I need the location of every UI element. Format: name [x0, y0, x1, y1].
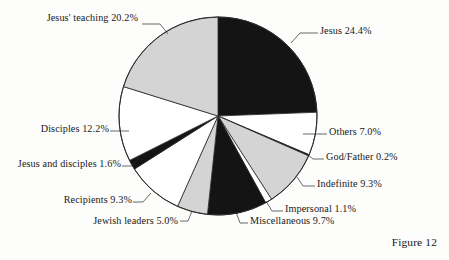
figure-container: Jesus' teaching 20.2% Jesus 24.4% Others… [0, 0, 449, 260]
pie-label-jesus: Jesus 24.4% [320, 26, 371, 37]
pie-slice-group [119, 17, 317, 215]
leader-line-recipients [133, 193, 151, 202]
pie-label-miscellaneous: Miscellaneous 9.7% [250, 216, 334, 227]
leader-line-indefinite [297, 177, 315, 186]
pie-label-jesus-and-disciples: Jesus and disciples 1.6% [18, 159, 121, 170]
pie-label-others: Others 7.0% [329, 127, 381, 138]
figure-caption: Figure 12 [392, 236, 437, 248]
leader-line-jewish-leaders [180, 211, 192, 221]
pie-label-jesus-teaching: Jesus' teaching 20.2% [47, 13, 138, 24]
pie-slice[interactable] [218, 17, 317, 116]
pie-label-jewish-leaders: Jewish leaders 5.0% [93, 216, 178, 227]
leader-line-impersonal [266, 201, 283, 211]
pie-label-recipients: Recipients 9.3% [64, 195, 132, 206]
pie-label-god-father: God/Father 0.2% [326, 152, 398, 163]
leader-line-miscellaneous [236, 212, 248, 223]
pie-label-disciples: Disciples 12.2% [41, 124, 109, 135]
pie-label-impersonal: Impersonal 1.1% [285, 204, 356, 215]
pie-label-indefinite: Indefinite 9.3% [317, 179, 382, 190]
leader-line-jesus [291, 33, 318, 43]
